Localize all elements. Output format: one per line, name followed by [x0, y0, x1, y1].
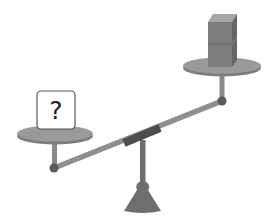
- balance-scale-diagram: ?: [0, 0, 280, 222]
- right-joint: [218, 97, 227, 106]
- stand-post: [140, 140, 146, 188]
- cube-top: [208, 14, 237, 44]
- left-joint: [50, 164, 59, 173]
- question-mark: ?: [49, 96, 62, 125]
- stand: [124, 140, 161, 213]
- stacked-cubes: [208, 14, 237, 67]
- unknown-box: ?: [37, 91, 75, 129]
- cube-bottom-front: [208, 44, 232, 67]
- cube-top-front: [208, 22, 232, 44]
- stand-foot: [124, 190, 161, 213]
- cube-top-face: [208, 14, 237, 22]
